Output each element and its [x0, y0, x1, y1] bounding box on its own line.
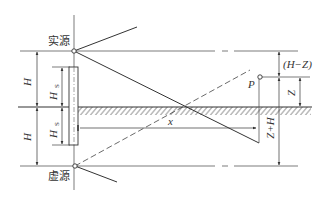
antenna-mast — [69, 67, 78, 145]
direct-ray-reflecting — [74, 51, 259, 143]
label-x: x — [167, 115, 173, 127]
label-hs-upper: H S — [47, 84, 61, 101]
label-h-minus-z: (H−Z) — [283, 58, 312, 71]
label-virtual-source: 虚源 — [48, 169, 70, 183]
label-real-source: 实源 — [48, 34, 70, 48]
label-h-lower: H — [21, 132, 33, 142]
virtual-ray-lower — [75, 166, 117, 182]
label-h-upper: H — [21, 77, 33, 87]
rays — [74, 27, 259, 182]
direct-ray-upper — [74, 27, 137, 51]
mast-rect — [69, 67, 78, 145]
reflection-geometry-diagram: 实源 虚源 H H H S H S x P (H−Z) Z Z+H — [0, 0, 328, 200]
label-p: P — [247, 78, 255, 90]
virtual-ray-dashed — [75, 70, 250, 166]
receiver-point-p — [258, 75, 262, 79]
label-hs-upper-main: H — [47, 91, 59, 101]
label-z-plus-h: Z+H — [264, 116, 276, 139]
label-hs-lower: H S — [47, 122, 61, 139]
label-hs-lower-sub: S — [53, 122, 61, 126]
virtual-source-point — [73, 164, 77, 168]
label-hs-lower-main: H — [47, 129, 59, 139]
label-hs-upper-sub: S — [53, 84, 61, 88]
real-source-point — [72, 49, 76, 53]
label-z: Z — [285, 89, 297, 96]
